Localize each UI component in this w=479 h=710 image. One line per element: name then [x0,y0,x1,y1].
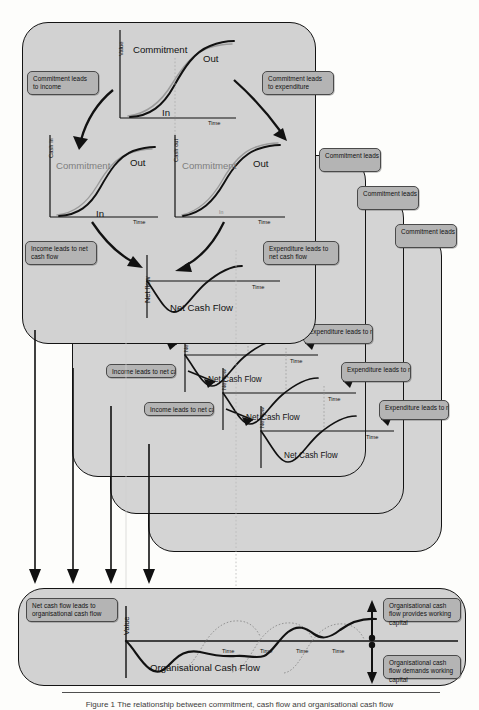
figure-caption: Figure 1 The relationship between commit… [0,700,479,709]
chip-demands-working-capital: Organisational cash flow demands working… [383,655,461,679]
chip-provides-working-capital: Organisational cash flow provides workin… [383,598,461,622]
organisational-cash-flow-y-label: Value [122,617,131,635]
bottom-x-tick-4: Time [332,648,344,654]
chip-net-cash-flow-to-organisational: Net cash flow leads to organisational ca… [26,598,118,622]
bottom-x-tick-2: Time [260,648,272,654]
caption-rule [62,692,440,693]
bottom-x-tick-1: Time [222,648,234,654]
organisational-cash-flow-title: Organisational Cash Flow [150,662,260,673]
figure-canvas: Commitment leads to expenditure Commitme… [0,0,479,710]
bottom-x-tick-3: Time [296,648,308,654]
